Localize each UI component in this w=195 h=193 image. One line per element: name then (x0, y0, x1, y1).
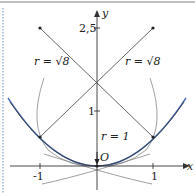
circle-arc-left (37, 78, 48, 150)
label-small-radius: r = 1 (101, 130, 129, 143)
x-tick-1: 1 (151, 170, 158, 183)
dot-top-right (151, 26, 154, 29)
label-left-radius: r = √8 (34, 55, 69, 68)
radius-arrow-icon (95, 159, 100, 165)
y-tick-2-5: 2,5 (79, 22, 97, 35)
circle-arc-right (146, 78, 157, 150)
x-axis-label: x (187, 160, 194, 173)
x-tick-minus-1: -1 (33, 170, 44, 183)
dot-bottom-left (38, 135, 41, 138)
diagram-canvas: y x O 2,5 1 -1 1 r = √8 r = √8 r = 1 (0, 0, 195, 193)
y-axis-label: y (101, 7, 109, 20)
dot-top-left (38, 26, 41, 29)
dot-bottom-right (151, 135, 154, 138)
y-axis-arrow-icon (94, 10, 100, 17)
y-tick-1: 1 (88, 105, 95, 118)
figure: y x O 2,5 1 -1 1 r = √8 r = √8 r = 1 (0, 0, 195, 193)
label-right-radius: r = √8 (125, 55, 160, 68)
origin-label: O (100, 151, 109, 164)
